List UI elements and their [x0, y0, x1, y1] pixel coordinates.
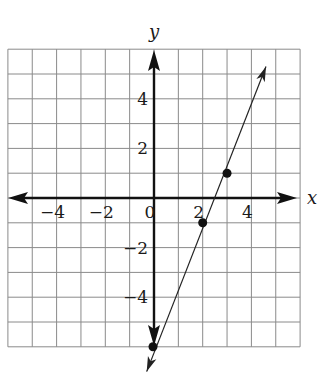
- x-axis-label: x: [307, 187, 317, 208]
- y-tick-label: −4: [123, 287, 148, 307]
- data-point: [223, 169, 232, 178]
- y-axis-label: y: [148, 21, 160, 42]
- data-point: [149, 342, 158, 351]
- x-tick-label: 4: [242, 202, 253, 222]
- x-tick-label: 0: [145, 202, 156, 222]
- y-tick-label: −2: [123, 238, 148, 258]
- x-tick-label: −2: [89, 202, 114, 222]
- coordinate-plane: x y −4−202442−2−4: [0, 0, 333, 386]
- y-tick-label: 2: [137, 138, 148, 158]
- data-point: [198, 218, 207, 227]
- y-tick-label: 4: [137, 89, 148, 109]
- x-tick-label: −4: [40, 202, 65, 222]
